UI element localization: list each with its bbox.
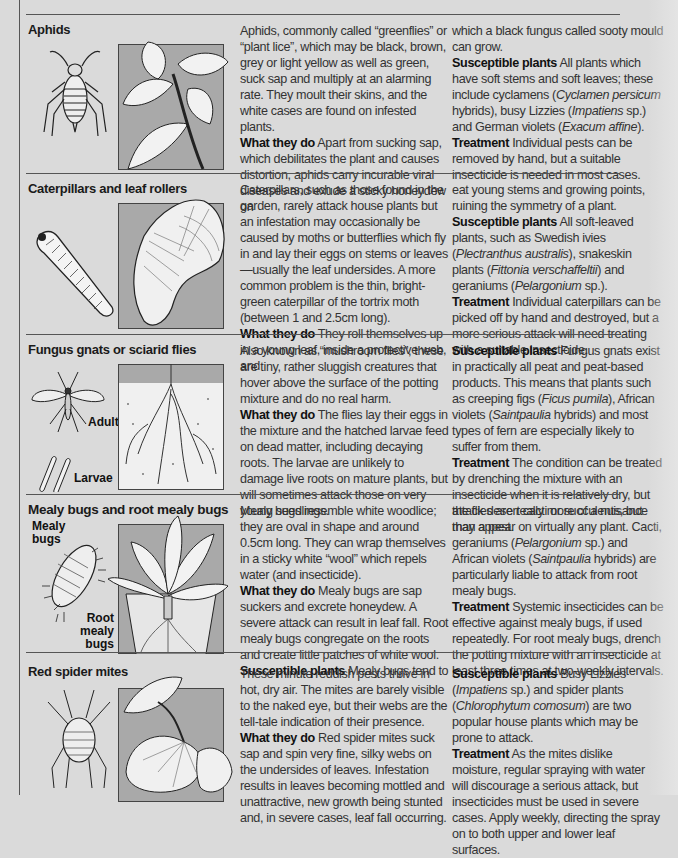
subheading-susceptible-plants: Susceptible plants [452,215,557,229]
section-aphids: Aphids Aphids, commonly called “greenfli… [26,14,620,172]
leaf-illustration [118,672,234,797]
section-title: Aphids [28,22,70,37]
section-fungus-gnats: Fungus gnats or sciarid flies Adult Larv… [26,334,620,494]
margin-rule [19,0,20,795]
subheading-susceptible-plants: Susceptible plants [452,667,557,681]
section-title: Red spider mites [28,664,128,679]
subheading-treatment: Treatment [452,456,509,470]
subheading-susceptible-plants: Susceptible plants [452,344,557,358]
body-column-2: eat young stems and growing points, ruin… [452,182,664,358]
subheading-treatment: Treatment [452,136,509,150]
subheading-what-they-do: What they do [240,584,315,598]
label-adult: Adult [88,416,119,429]
aphid-icon [40,44,110,144]
plant-leaves-illustration [118,34,233,174]
rolled-leaf-illustration [124,191,234,333]
page-edge [648,0,678,795]
subheading-what-they-do: What they do [240,408,315,422]
body-column-1: These minute reddish pests thrive in hot… [240,666,450,826]
subheading-treatment: Treatment [452,600,509,614]
spider-mite-icon [44,688,114,793]
subheading-treatment: Treatment [452,295,509,309]
larvae-icon [36,452,76,492]
subheading-susceptible-plants: Susceptible plants [452,56,557,70]
section-red-spider-mites: Red spider mites These minute reddish pe… [26,652,620,795]
section-mealy-bugs: Mealy bugs and root mealy bugs Mealy bug… [26,494,620,652]
body-column-2: which a black fungus called sooty mould … [452,23,664,183]
label-larvae: Larvae [74,472,113,485]
subheading-treatment: Treatment [452,747,509,761]
subheading-what-they-do: What they do [240,731,315,745]
body-column-2: Susceptible plants Busy Lizzies (Impatie… [452,666,664,858]
subheading-what-they-do: What they do [240,136,315,150]
caterpillar-icon [30,223,120,323]
section-title: Fungus gnats or sciarid flies [28,342,196,357]
body-column-1: Also known as “mushroom flies”, these ar… [240,343,450,519]
soil-roots-illustration [118,364,224,490]
cactus-pot-illustration [106,514,230,654]
section-caterpillars: Caterpillars and leaf rollers Caterpilla… [26,173,620,333]
